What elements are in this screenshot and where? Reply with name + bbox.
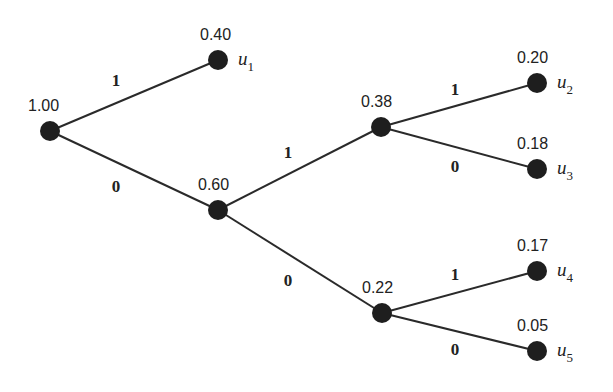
leaf-symbol-label: u2 xyxy=(557,71,573,97)
edge-bit-label: 1 xyxy=(451,265,460,284)
node-probability-label: 0.05 xyxy=(517,317,548,334)
node-n038 xyxy=(371,117,391,137)
edge-bit-label: 1 xyxy=(451,80,460,99)
node-root xyxy=(40,121,60,141)
edge-bit-label: 0 xyxy=(451,340,460,359)
node-n022 xyxy=(372,303,392,323)
node-u4 xyxy=(527,261,547,281)
edge-root-n060 xyxy=(50,131,218,210)
node-u3 xyxy=(527,159,547,179)
edge-bit-label: 0 xyxy=(112,177,121,196)
node-probability-label: 0.60 xyxy=(198,176,229,193)
huffman-tree-diagram: 10101010 1.000.40u10.600.380.220.20u20.1… xyxy=(0,0,613,392)
node-probability-label: 0.17 xyxy=(517,237,548,254)
edge-root-u1 xyxy=(50,60,218,131)
tree-nodes: 1.000.40u10.600.380.220.20u20.18u30.17u4… xyxy=(28,26,574,365)
node-probability-label: 0.20 xyxy=(517,49,548,66)
edge-bit-label: 1 xyxy=(284,143,293,162)
node-probability-label: 1.00 xyxy=(28,97,59,114)
node-u2 xyxy=(527,73,547,93)
node-probability-label: 0.40 xyxy=(200,26,231,43)
edge-bit-label: 0 xyxy=(284,271,293,290)
edge-n022-u4 xyxy=(382,271,537,313)
edge-n022-u5 xyxy=(382,313,537,351)
node-probability-label: 0.22 xyxy=(362,279,393,296)
leaf-symbol-label: u4 xyxy=(557,259,574,285)
edge-bit-label: 0 xyxy=(451,157,460,176)
leaf-symbol-label: u3 xyxy=(557,157,573,183)
edge-n060-n038 xyxy=(218,127,381,210)
leaf-symbol-label: u1 xyxy=(238,48,254,74)
node-probability-label: 0.38 xyxy=(361,93,392,110)
node-u1 xyxy=(208,50,228,70)
edge-bit-label: 1 xyxy=(112,71,121,90)
node-n060 xyxy=(208,200,228,220)
node-u5 xyxy=(527,341,547,361)
edge-n060-n022 xyxy=(218,210,382,313)
tree-edges: 10101010 xyxy=(50,60,537,359)
node-probability-label: 0.18 xyxy=(517,135,548,152)
leaf-symbol-label: u5 xyxy=(557,339,573,365)
